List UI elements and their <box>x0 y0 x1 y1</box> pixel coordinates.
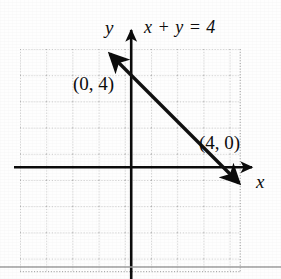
graph-figure: x + y = 4 y x (0, 4) (4, 0) <box>0 0 281 279</box>
equation-label: x + y = 4 <box>144 18 216 36</box>
x-intercept-label: (4, 0) <box>199 133 240 152</box>
x-axis-label: x <box>256 172 264 191</box>
y-axis-label: y <box>105 18 113 37</box>
y-intercept-label: (0, 4) <box>73 74 114 93</box>
equation-text: x + y = 4 <box>144 17 216 37</box>
